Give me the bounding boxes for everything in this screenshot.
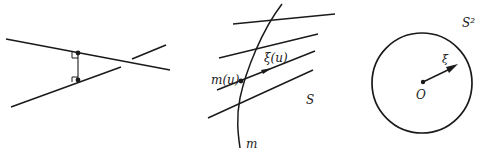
label-m-u: m(u) [211, 73, 240, 87]
lower-line [11, 67, 121, 107]
upper-line [6, 39, 170, 70]
lower-line-continuation [132, 45, 166, 59]
label-surface-s: S [306, 93, 314, 107]
label-center-o: O [416, 88, 426, 102]
foot-point-bottom [76, 78, 81, 83]
figure-canvas: m(u) ξ(u) S m S² ξ O [0, 0, 490, 155]
panel-skew-lines [6, 39, 170, 107]
label-xi-u: ξ(u) [264, 51, 288, 65]
label-xi: ξ [442, 53, 449, 66]
foot-point-top [76, 51, 81, 56]
ruling-1 [233, 14, 335, 24]
xi-u-arrowhead [261, 68, 272, 74]
label-curve-m: m [246, 137, 257, 151]
label-sphere-s2: S² [462, 16, 475, 30]
panel-unit-sphere [372, 33, 472, 133]
directrix-curve [238, 4, 282, 148]
center-point-o [421, 80, 425, 84]
